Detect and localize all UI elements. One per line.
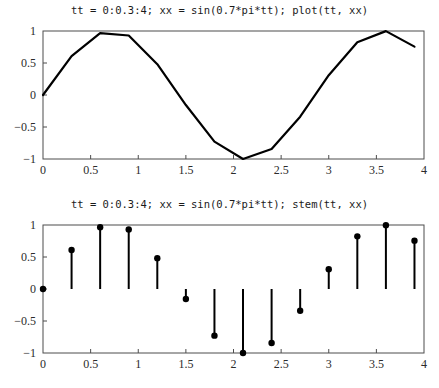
stem-plot-xtick-label: 0 [40,357,46,371]
stem-marker [154,255,160,261]
line-series-path [43,31,414,159]
stem-marker [211,332,217,338]
line-plot-frame [43,31,424,159]
stem-plot-xtick-label: 1 [135,357,141,371]
line-plot-xtick-label: 2 [231,163,237,177]
line-plot-xtick-label: 0.5 [83,163,98,177]
stem-plot-axes: 00.511.522.533.54−1−0.500.51 [0,194,439,388]
figure-canvas: tt = 0:0.3:4; xx = sin(0.7*pi*tt); plot(… [0,0,439,388]
stem-marker [240,350,246,356]
stem-marker [126,226,132,232]
stem-marker [268,340,274,346]
stem-marker [326,266,332,272]
line-plot-ytick-label: −0.5 [14,120,36,134]
stem-marker [97,224,103,230]
stem-plot-ytick-label: 0.5 [21,250,36,264]
stem-plot-ytick-label: 1 [30,218,36,232]
stem-plot-xtick-label: 4 [421,357,427,371]
stem-plot-xtick-label: 2 [231,357,237,371]
line-plot-ytick-label: 1 [30,24,36,38]
stem-marker [297,307,303,313]
stem-plot-panel: tt = 0:0.3:4; xx = sin(0.7*pi*tt); stem(… [0,194,439,388]
stem-plot-ytick-label: −0.5 [14,314,36,328]
line-plot-xtick-label: 1.5 [178,163,193,177]
stem-plot-xtick-label: 2.5 [274,357,289,371]
line-plot-xtick-label: 3 [326,163,332,177]
stem-marker [183,296,189,302]
stem-plot-ytick-label: −1 [23,346,36,360]
line-plot-axes: 00.511.522.533.54−1−0.500.51 [0,0,439,194]
line-plot-panel: tt = 0:0.3:4; xx = sin(0.7*pi*tt); plot(… [0,0,439,194]
stem-marker [68,247,74,253]
line-plot-ytick-label: −1 [23,152,36,166]
line-plot-ytick-label: 0 [30,88,36,102]
line-plot-xtick-label: 2.5 [274,163,289,177]
line-plot-xtick-label: 0 [40,163,46,177]
stem-marker [383,222,389,228]
line-plot-xtick-label: 4 [421,163,427,177]
stem-marker [40,286,46,292]
stem-marker [411,237,417,243]
stem-plot-xtick-label: 0.5 [83,357,98,371]
line-plot-ytick-label: 0.5 [21,56,36,70]
line-plot-xtick-label: 1 [135,163,141,177]
stem-plot-xtick-label: 3 [326,357,332,371]
line-plot-xtick-label: 3.5 [369,163,384,177]
stem-marker [354,233,360,239]
stem-plot-ytick-label: 0 [30,282,36,296]
stem-plot-xtick-label: 1.5 [178,357,193,371]
stem-plot-xtick-label: 3.5 [369,357,384,371]
